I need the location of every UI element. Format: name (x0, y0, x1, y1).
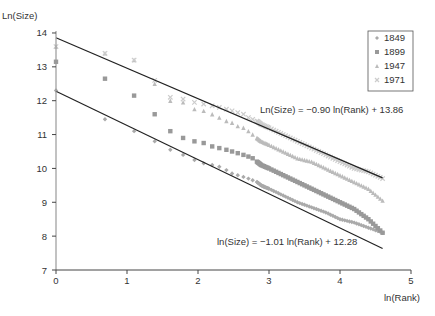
x-tick-label: 4 (337, 275, 342, 286)
legend: 1849189919471971 (368, 31, 413, 91)
zipf-rank-size-chart: 0123457891011121314 Ln(Size) = −0.90 ln(… (0, 0, 435, 316)
x-tick-label: 5 (408, 275, 413, 286)
series-1947 (54, 44, 385, 202)
x-tick-label: 1 (124, 275, 129, 286)
data-points (54, 44, 385, 235)
upper-fit-equation: Ln(Size) = −0.90 ln(Rank) + 13.86 (260, 104, 403, 115)
y-tick-label: 12 (36, 95, 47, 106)
lower-fit-equation: ln(Size) = −1.01 ln(Rank) + 12.28 (217, 236, 357, 247)
series-1899 (54, 60, 385, 235)
legend-item-1971: 1971 (384, 74, 405, 85)
axes: 0123457891011121314 (36, 27, 413, 286)
y-tick-label: 7 (42, 265, 47, 276)
x-tick-label: 2 (195, 275, 200, 286)
legend-item-1899: 1899 (384, 46, 405, 57)
y-tick-label: 9 (42, 197, 47, 208)
x-tick-label: 3 (266, 275, 271, 286)
y-tick-label: 11 (37, 129, 47, 140)
legend-item-1849: 1849 (384, 32, 405, 43)
x-axis-label: ln(Rank) (384, 292, 420, 303)
y-tick-label: 8 (42, 231, 47, 242)
y-tick-label: 13 (36, 61, 47, 72)
x-tick-label: 0 (53, 275, 58, 286)
legend-item-1947: 1947 (384, 60, 405, 71)
y-tick-label: 14 (36, 27, 47, 38)
y-axis-label: Ln(Size) (2, 10, 37, 21)
y-tick-label: 10 (36, 163, 47, 174)
